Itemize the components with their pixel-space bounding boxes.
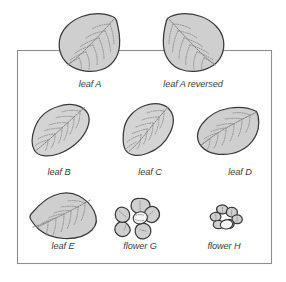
leaf-a-label: leaf A: [79, 79, 102, 89]
leaf-c-blade: [123, 104, 173, 156]
specimen-leaf-d: leaf D: [198, 107, 259, 177]
leaf-e-label: leaf E: [52, 241, 76, 251]
leaf-c-label: leaf C: [138, 167, 162, 177]
leaf-b-label: leaf B: [48, 167, 71, 177]
specimen-leaf-b: leaf B: [32, 104, 89, 177]
flower-h-label: flower H: [208, 241, 241, 251]
leaf-d-label: leaf D: [228, 167, 252, 177]
specimen-leaf-a: leaf A: [59, 14, 119, 90]
leaf-a-reversed-label: leaf A reversed: [163, 79, 224, 89]
flower-g-label: flower G: [123, 241, 156, 251]
leaf-specimen-figure: leaf A leaf A reversed leaf B leaf C: [0, 0, 286, 282]
specimen-leaf-a-reversed: leaf A reversed: [163, 14, 224, 90]
specimen-leaf-e: leaf E: [30, 193, 96, 251]
leaf-e-blade: [30, 193, 96, 238]
specimen-flower-h: flower H: [208, 205, 243, 251]
specimen-flower-g: flower G: [115, 198, 160, 251]
leaf-b-blade: [32, 104, 89, 155]
specimen-leaf-c: leaf C: [123, 104, 173, 177]
